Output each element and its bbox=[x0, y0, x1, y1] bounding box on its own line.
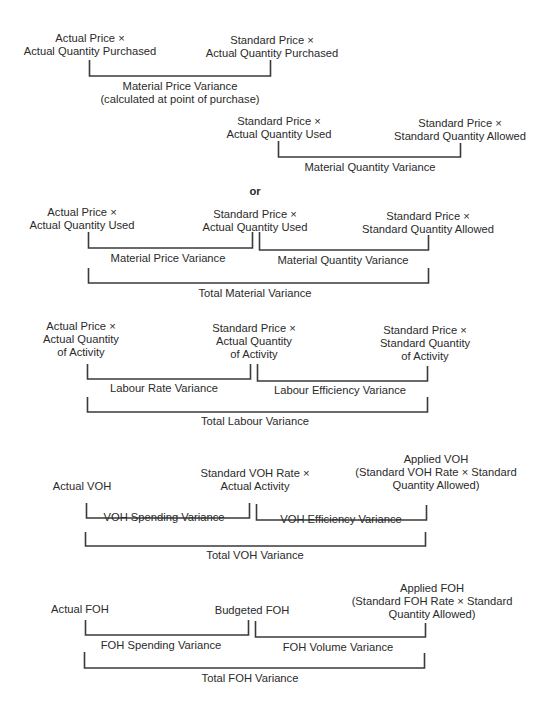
node-line: Standard Price × bbox=[226, 115, 331, 128]
bracket-foh-spending bbox=[86, 620, 249, 635]
node-line: Applied FOH bbox=[352, 582, 513, 595]
variance-label: Total Material Variance bbox=[199, 287, 312, 300]
node-actual-price-actual-qty-used: Actual Price × Actual Quantity Used bbox=[29, 206, 134, 232]
node-labour-actual: Actual Price × Actual Quantity of Activi… bbox=[43, 320, 119, 359]
node-std-price-actual-qty-used-2: Standard Price × Actual Quantity Used bbox=[202, 208, 307, 234]
variance-label: FOH Volume Variance bbox=[283, 641, 393, 654]
bracket-material-price-purchase bbox=[90, 60, 271, 76]
variance-foh-spending: FOH Spending Variance bbox=[101, 639, 221, 652]
node-std-price-actual-qty-used: Standard Price × Actual Quantity Used bbox=[226, 115, 331, 141]
node-line: Actual Quantity Purchased bbox=[24, 45, 156, 58]
bracket-foh-volume bbox=[256, 621, 426, 637]
node-line: Actual Quantity Used bbox=[29, 219, 134, 232]
variance-label: Total VOH Variance bbox=[206, 549, 303, 562]
node-line: Standard Price × bbox=[206, 34, 338, 47]
node-applied-voh: Applied VOH (Standard VOH Rate × Standar… bbox=[355, 453, 516, 492]
bracket-material-quantity bbox=[279, 141, 461, 157]
bracket-total-voh bbox=[86, 532, 426, 546]
node-line: of Activity bbox=[380, 350, 470, 363]
node-std-price-actual-qty-purchased: Standard Price × Actual Quantity Purchas… bbox=[206, 34, 338, 60]
node-line: Standard Price × bbox=[362, 210, 494, 223]
node-line: Budgeted FOH bbox=[215, 604, 290, 617]
variance-label: Total FOH Variance bbox=[202, 672, 299, 685]
node-line: Standard Price × bbox=[202, 208, 307, 221]
variance-label: FOH Spending Variance bbox=[101, 639, 221, 652]
variance-label: Labour Efficiency Variance bbox=[274, 384, 406, 397]
variance-note: (calculated at point of purchase) bbox=[100, 93, 259, 106]
variance-labour-rate: Labour Rate Variance bbox=[110, 382, 218, 395]
node-line: Applied VOH bbox=[355, 453, 516, 466]
node-std-price-std-qty-allowed-2: Standard Price × Standard Quantity Allow… bbox=[362, 210, 494, 236]
node-std-price-std-qty-allowed: Standard Price × Standard Quantity Allow… bbox=[394, 117, 526, 143]
node-actual-voh: Actual VOH bbox=[53, 480, 111, 493]
variance-label: Labour Rate Variance bbox=[110, 382, 218, 395]
bracket-material-price bbox=[89, 232, 253, 248]
node-line: of Activity bbox=[43, 346, 119, 359]
bracket-labour-rate bbox=[88, 364, 251, 379]
variance-label: Material Price Variance bbox=[111, 252, 226, 265]
or-separator: or bbox=[249, 185, 260, 198]
variance-label: VOH Spending Variance bbox=[103, 511, 224, 524]
variance-material-price-purchase: Material Price Variance (calculated at p… bbox=[100, 80, 259, 106]
node-line: Quantity Allowed) bbox=[352, 608, 513, 621]
variance-label: Material Price Variance bbox=[100, 80, 259, 93]
node-line: Actual Quantity bbox=[212, 335, 296, 348]
bracket-total-material bbox=[89, 268, 429, 283]
node-line: Actual Price × bbox=[24, 32, 156, 45]
node-line: Actual Quantity bbox=[43, 333, 119, 346]
node-line: Standard VOH Rate × bbox=[200, 467, 309, 480]
variance-total-material: Total Material Variance bbox=[199, 287, 312, 300]
node-line: Actual Price × bbox=[43, 320, 119, 333]
variance-total-voh: Total VOH Variance bbox=[206, 549, 303, 562]
node-line: Standard Quantity bbox=[380, 337, 470, 350]
node-line: Standard Quantity Allowed bbox=[394, 130, 526, 143]
node-actual-foh: Actual FOH bbox=[51, 603, 109, 616]
bracket-labour-efficiency bbox=[258, 364, 428, 381]
node-budgeted-foh: Budgeted FOH bbox=[215, 604, 290, 617]
node-line: Actual Quantity Used bbox=[226, 128, 331, 141]
node-line: Standard Price × bbox=[380, 324, 470, 337]
node-line: Actual VOH bbox=[53, 480, 111, 493]
node-line: Standard Quantity Allowed bbox=[362, 223, 494, 236]
variance-label: Total Labour Variance bbox=[201, 415, 309, 428]
variance-material-price: Material Price Variance bbox=[111, 252, 226, 265]
variance-voh-efficiency: VOH Efficiency Variance bbox=[280, 513, 401, 526]
node-line: Standard Price × bbox=[212, 322, 296, 335]
node-labour-std-actual: Standard Price × Actual Quantity of Acti… bbox=[212, 322, 296, 361]
node-line: of Activity bbox=[212, 348, 296, 361]
separator-text: or bbox=[249, 185, 260, 198]
variance-total-labour: Total Labour Variance bbox=[201, 415, 309, 428]
node-line: Actual Price × bbox=[29, 206, 134, 219]
bracket-total-labour bbox=[88, 397, 428, 412]
node-line: (Standard FOH Rate × Standard bbox=[352, 595, 513, 608]
node-line: Quantity Allowed) bbox=[355, 479, 516, 492]
variance-voh-spending: VOH Spending Variance bbox=[103, 511, 224, 524]
variance-labour-efficiency: Labour Efficiency Variance bbox=[274, 384, 406, 397]
node-line: Actual FOH bbox=[51, 603, 109, 616]
bracket-total-foh bbox=[85, 652, 425, 668]
node-line: Standard Price × bbox=[394, 117, 526, 130]
variance-label: VOH Efficiency Variance bbox=[280, 513, 401, 526]
node-line: (Standard VOH Rate × Standard bbox=[355, 466, 516, 479]
node-labour-std-std: Standard Price × Standard Quantity of Ac… bbox=[380, 324, 470, 363]
node-actual-price-actual-qty-purchased: Actual Price × Actual Quantity Purchased bbox=[24, 32, 156, 58]
node-std-voh-rate-actual-activity: Standard VOH Rate × Actual Activity bbox=[200, 467, 309, 493]
node-line: Actual Quantity Purchased bbox=[206, 47, 338, 60]
variance-material-quantity: Material Quantity Variance bbox=[305, 161, 436, 174]
variance-label: Material Quantity Variance bbox=[278, 254, 409, 267]
node-applied-foh: Applied FOH (Standard FOH Rate × Standar… bbox=[352, 582, 513, 621]
variance-label: Material Quantity Variance bbox=[305, 161, 436, 174]
node-line: Actual Quantity Used bbox=[202, 221, 307, 234]
variance-material-quantity-2: Material Quantity Variance bbox=[278, 254, 409, 267]
variance-total-foh: Total FOH Variance bbox=[202, 672, 299, 685]
variance-foh-volume: FOH Volume Variance bbox=[283, 641, 393, 654]
node-line: Actual Activity bbox=[200, 480, 309, 493]
